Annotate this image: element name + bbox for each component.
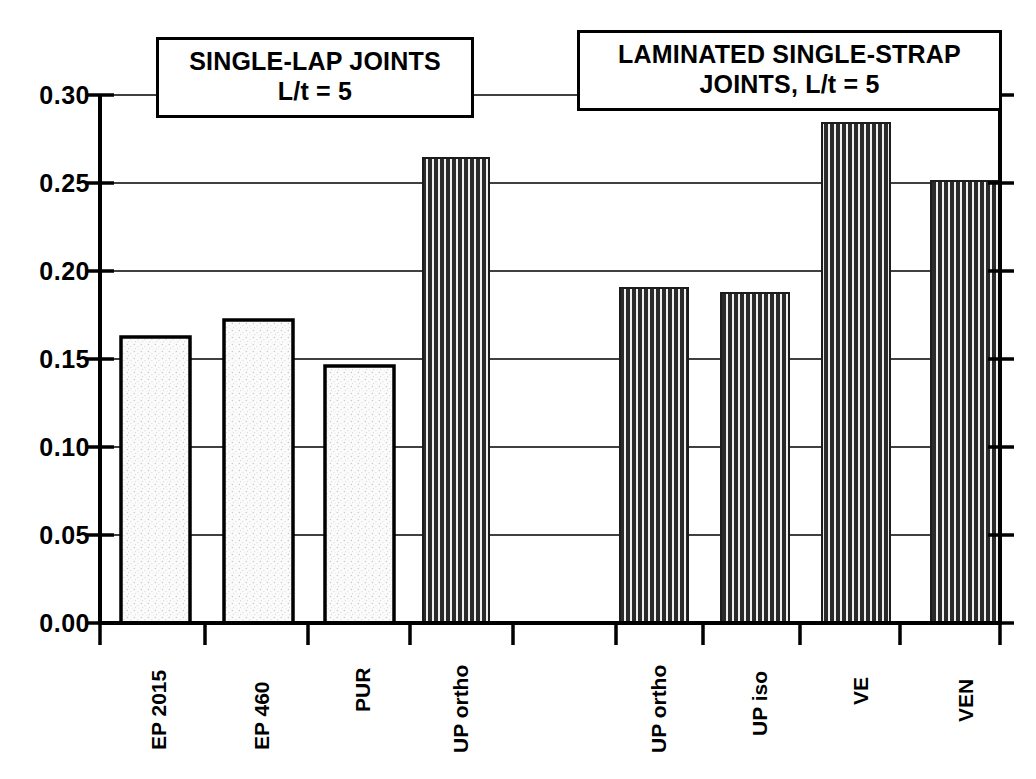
annotation-box-1-line-1: LAMINATED SINGLE-STRAP: [592, 40, 987, 70]
bar-chart-figure: 0.30 0.25 0.20 0.15 0.10 0.05 0.00 EP 20…: [0, 0, 1036, 779]
ytick-label-3: 0.15: [4, 347, 90, 372]
bar-up-ortho-lap: [423, 158, 489, 623]
annotation-box-1-line-2: JOINTS, L/t = 5: [592, 70, 987, 100]
ytick-label-1: 0.25: [4, 171, 90, 196]
xtick-label-ep-2015: EP 2015: [148, 670, 169, 750]
annotation-box-0-line-1: SINGLE-LAP JOINTS: [171, 47, 459, 77]
bar-up-ortho-strap: [620, 288, 688, 623]
ytick-label-4: 0.10: [4, 435, 90, 460]
ytick-label-5: 0.05: [4, 523, 90, 548]
bar-series: [121, 123, 1000, 623]
bar-ep-2015: [121, 337, 190, 623]
xtick-label-ven: VEN: [955, 679, 976, 722]
xtick-label-up-iso: UP iso: [749, 671, 770, 736]
bar-pur: [325, 366, 394, 623]
xtick-label-ve: VE: [850, 677, 871, 705]
bar-up-iso: [721, 293, 789, 623]
annotation-box-single-lap-joints: SINGLE-LAP JOINTS L/t = 5: [156, 37, 474, 118]
xtick-label-up-ortho-strap: UP ortho: [648, 665, 669, 753]
xtick-label-pur: PUR: [352, 668, 373, 712]
ytick-label-2: 0.20: [4, 259, 90, 284]
annotation-box-0-line-2: L/t = 5: [171, 77, 459, 107]
bar-ve: [822, 123, 890, 623]
bar-ven: [931, 181, 1000, 623]
annotation-box-laminated-single-strap-joints: LAMINATED SINGLE-STRAP JOINTS, L/t = 5: [577, 30, 1002, 111]
xtick-label-up-ortho-lap: UP ortho: [450, 665, 471, 753]
bar-ep-460: [224, 320, 293, 623]
ytick-label-6: 0.00: [4, 611, 90, 636]
xtick-label-ep-460: EP 460: [251, 681, 272, 750]
ytick-label-0: 0.30: [4, 83, 90, 108]
